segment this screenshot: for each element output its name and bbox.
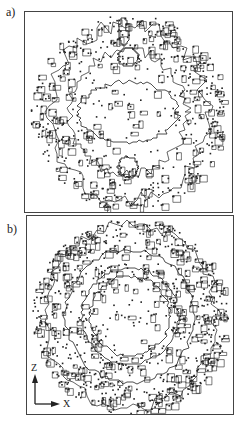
data-point [140, 60, 142, 62]
data-point [177, 42, 179, 44]
data-point [208, 329, 210, 331]
data-point [196, 250, 198, 252]
data-point [98, 21, 100, 23]
data-point [77, 356, 79, 358]
data-point [165, 394, 167, 396]
data-point [158, 131, 160, 133]
data-point [127, 37, 129, 39]
data-point [109, 362, 111, 364]
data-point [176, 148, 178, 150]
data-point [43, 153, 45, 155]
data-point [189, 73, 191, 75]
data-point [69, 354, 71, 356]
data-point [36, 317, 38, 319]
data-point [31, 110, 33, 112]
data-point [209, 58, 211, 60]
data-point [139, 321, 141, 323]
data-point [190, 343, 192, 345]
data-point [90, 386, 92, 388]
data-point [114, 385, 116, 387]
data-point [119, 240, 121, 242]
data-point [93, 278, 95, 280]
data-point [161, 374, 163, 376]
data-point [185, 250, 187, 252]
data-point [56, 355, 58, 357]
data-point [203, 293, 205, 295]
data-point [186, 90, 188, 92]
data-point [134, 154, 136, 156]
data-point [46, 128, 48, 130]
data-point [70, 358, 72, 360]
data-point [155, 225, 157, 227]
data-point [149, 225, 151, 227]
data-point [56, 280, 58, 282]
data-point [174, 384, 176, 386]
data-point [57, 341, 59, 343]
data-point [65, 347, 67, 349]
data-point [211, 334, 213, 336]
data-point [223, 106, 225, 108]
data-point [210, 341, 212, 343]
data-point [52, 261, 54, 263]
data-point [64, 160, 66, 162]
data-point [52, 311, 54, 313]
data-point [164, 108, 166, 110]
data-point [106, 235, 108, 237]
data-point [163, 58, 165, 60]
data-point [42, 83, 44, 85]
center-sparse-points [102, 289, 160, 343]
data-point [128, 103, 130, 105]
data-point [74, 269, 76, 271]
data-point [169, 91, 171, 93]
data-point [171, 244, 173, 246]
data-point [201, 118, 203, 120]
data-point [150, 184, 152, 186]
data-point [173, 166, 175, 168]
data-point [113, 236, 115, 238]
data-point [84, 361, 86, 363]
data-point [186, 261, 188, 263]
data-point [89, 199, 91, 201]
data-point [154, 36, 156, 38]
data-point [119, 284, 121, 286]
data-point [103, 367, 105, 369]
x-axis-label: X [63, 398, 71, 409]
data-point [212, 271, 214, 273]
data-point [203, 288, 205, 290]
data-point [182, 398, 184, 400]
data-point [198, 322, 200, 324]
data-point [144, 391, 146, 393]
data-point [61, 124, 63, 126]
data-point [132, 18, 134, 20]
data-point [143, 233, 145, 235]
data-point [207, 349, 209, 351]
data-point [35, 306, 37, 308]
data-point [96, 326, 98, 328]
data-point [163, 302, 165, 304]
data-point [208, 285, 210, 287]
data-point [195, 123, 197, 125]
data-point [98, 277, 100, 279]
data-point [92, 82, 94, 84]
data-point [221, 303, 223, 305]
data-point [167, 228, 169, 230]
data-point [79, 63, 81, 65]
data-point [226, 303, 228, 305]
data-point [82, 233, 84, 235]
data-point [198, 306, 200, 308]
data-point [46, 341, 48, 343]
data-point [41, 293, 43, 295]
data-point [75, 54, 77, 56]
data-point [152, 44, 154, 46]
data-point [171, 305, 173, 307]
data-point [86, 385, 88, 387]
data-point [186, 134, 188, 136]
data-point [85, 232, 87, 234]
data-point [129, 304, 131, 306]
data-point [209, 264, 211, 266]
data-point [83, 376, 85, 378]
x-arrow-head-icon [51, 401, 60, 407]
data-point [86, 257, 88, 259]
data-point [189, 163, 191, 165]
data-point [180, 400, 182, 402]
